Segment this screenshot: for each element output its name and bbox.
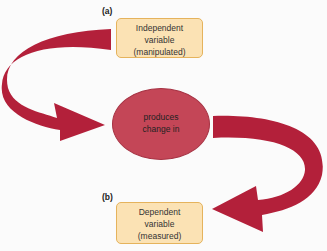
box-line: Dependent	[117, 206, 202, 218]
arrow-upper-icon	[2, 29, 111, 141]
label-b: (b)	[102, 192, 113, 202]
arrow-lower-icon	[212, 116, 323, 232]
box-line: Independent	[117, 22, 202, 34]
box-line: variable	[117, 218, 202, 230]
label-a: (a)	[102, 6, 112, 16]
independent-variable-box: Independent variable (manipulated)	[116, 18, 203, 58]
box-line: variable	[117, 34, 202, 46]
dependent-variable-box: Dependent variable (measured)	[116, 202, 203, 244]
circle-line: change in	[113, 123, 209, 135]
produces-change-circle: produces change in	[112, 88, 210, 160]
box-line: (manipulated)	[117, 46, 202, 58]
box-line: (measured)	[117, 230, 202, 242]
circle-line: produces	[113, 111, 209, 123]
